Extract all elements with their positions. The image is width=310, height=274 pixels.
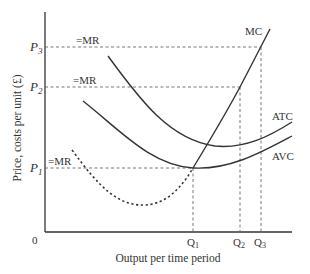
p2-mr-label: =MR <box>73 74 97 86</box>
origin-label: 0 <box>32 234 38 246</box>
p3-mr-label: =MR <box>76 34 100 46</box>
mc-curve-dotted <box>72 150 193 205</box>
atc-label: ATC <box>272 110 293 122</box>
p1-label: P1 <box>29 160 42 177</box>
mc-label: MC <box>245 25 262 37</box>
y-axis-title: Price, costs per unit (£) <box>11 74 24 181</box>
mc-curve <box>193 29 270 168</box>
q1-label: Q1 <box>187 236 199 250</box>
x-axis-title: Output per time period <box>115 252 220 265</box>
p1-mr-label: =MR <box>48 155 72 167</box>
avc-label: AVC <box>272 150 294 162</box>
atc-curve <box>108 56 292 146</box>
p2-label: P2 <box>29 79 43 96</box>
q2-label: Q2 <box>233 236 245 250</box>
p3-label: P3 <box>29 39 43 56</box>
q3-label: Q3 <box>254 236 266 250</box>
cost-curves-diagram: P3 P2 P1 =MR =MR =MR MC ATC AVC Q1 Q2 Q3… <box>0 0 310 274</box>
